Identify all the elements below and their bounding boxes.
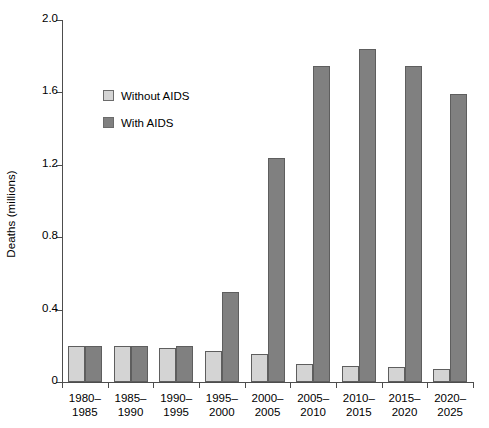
bar-group <box>251 20 285 382</box>
x-tick-mark <box>427 382 428 388</box>
legend-item[interactable]: With AIDS <box>103 113 189 132</box>
bar[interactable] <box>450 94 467 382</box>
bar-group <box>433 20 467 382</box>
bar[interactable] <box>68 346 85 382</box>
x-tick-mark <box>382 382 383 388</box>
bar[interactable] <box>342 366 359 382</box>
legend-label: With AIDS <box>121 117 173 129</box>
x-tick-mark <box>199 382 200 388</box>
bar[interactable] <box>268 158 285 382</box>
x-axis-line <box>62 382 473 383</box>
legend-swatch-icon <box>103 90 114 101</box>
bar[interactable] <box>388 367 405 382</box>
y-tick-label: 1.2 <box>42 157 58 169</box>
bar[interactable] <box>296 364 313 382</box>
bar[interactable] <box>205 351 222 382</box>
bar-group <box>296 20 330 382</box>
y-tick-label: 0.8 <box>42 229 58 241</box>
plot-area: 00.40.81.21.62.0 1980–19851985–19901990–… <box>62 20 473 382</box>
x-tick-mark <box>108 382 109 388</box>
bar[interactable] <box>159 348 176 382</box>
bar-group <box>68 20 102 382</box>
y-tick-label: 2.0 <box>42 12 58 24</box>
y-tick-label: 0 <box>52 374 58 386</box>
legend-swatch-icon <box>103 117 114 128</box>
bar[interactable] <box>222 292 239 383</box>
bar-group <box>388 20 422 382</box>
bar[interactable] <box>131 346 148 382</box>
bar[interactable] <box>85 346 102 382</box>
bar[interactable] <box>114 346 131 382</box>
y-tick-label: 1.6 <box>42 84 58 96</box>
x-tick-mark <box>473 382 474 388</box>
x-tick-mark <box>290 382 291 388</box>
x-tick-mark <box>245 382 246 388</box>
bar-group <box>159 20 193 382</box>
x-tick-mark <box>62 382 63 388</box>
x-tick-mark <box>153 382 154 388</box>
bar[interactable] <box>251 354 268 382</box>
bar[interactable] <box>176 346 193 382</box>
bar-group <box>205 20 239 382</box>
x-tick-label: 2020–2025 <box>419 392 481 419</box>
y-axis-line <box>62 20 63 382</box>
bar[interactable] <box>405 66 422 382</box>
bar[interactable] <box>313 66 330 382</box>
legend-label: Without AIDS <box>121 90 189 102</box>
bar[interactable] <box>433 369 450 382</box>
bar-chart-figure: Deaths (millions) 00.40.81.21.62.0 1980–… <box>0 0 489 428</box>
legend-item[interactable]: Without AIDS <box>103 86 189 105</box>
y-tick-label: 0.4 <box>42 302 58 314</box>
bar[interactable] <box>359 49 376 382</box>
chart-legend: Without AIDSWith AIDS <box>103 86 189 140</box>
bar-group <box>342 20 376 382</box>
x-tick-mark <box>336 382 337 388</box>
y-axis-title: Deaths (millions) <box>0 0 22 428</box>
bar-group <box>114 20 148 382</box>
